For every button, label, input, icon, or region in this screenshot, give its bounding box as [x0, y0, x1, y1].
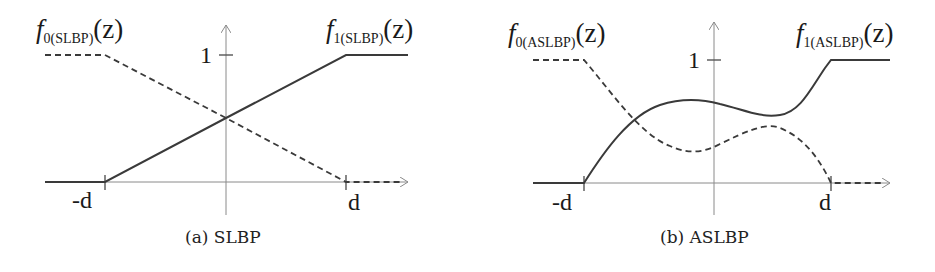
figure: 1 -d d f0(SLBP)(z) f1(SLBP)(z) (a) SLBP … — [0, 0, 935, 272]
pos-d-label: d — [819, 189, 831, 215]
f0-slbp-label: f0(SLBP)(z) — [36, 14, 123, 47]
neg-d-label: -d — [552, 189, 572, 215]
caption-a: (a) SLBP — [185, 227, 261, 247]
y-tick-label: 1 — [200, 42, 212, 68]
panel-a-slbp: 1 -d d f0(SLBP)(z) f1(SLBP)(z) (a) SLBP — [36, 14, 413, 247]
f1-aslbp-label: f1(ASLBP)(z) — [796, 18, 893, 51]
neg-d-label: -d — [72, 187, 92, 213]
f0-aslbp-label: f0(ASLBP)(z) — [508, 18, 605, 51]
f1-slbp-label: f1(SLBP)(z) — [326, 14, 413, 47]
caption-b: (b) ASLBP — [660, 227, 749, 247]
curve-f0-aslbp — [533, 60, 884, 183]
pos-d-label: d — [348, 189, 360, 215]
y-tick-label: 1 — [688, 47, 700, 73]
panel-b-aslbp: 1 -d d f0(ASLBP)(z) f1(ASLBP)(z) (b) ASL… — [508, 18, 893, 247]
curve-f1-aslbp — [533, 60, 890, 183]
